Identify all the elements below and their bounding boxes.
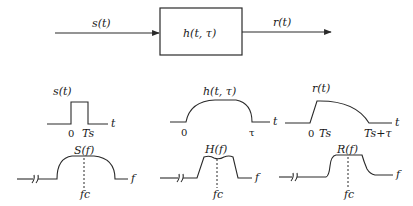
input-tick-0: 0: [68, 128, 74, 139]
spectrum-waveform: [38, 156, 128, 179]
channel-freq-plot: H(f) f fc: [160, 143, 261, 201]
block-diagram: s(t) h(t, τ) r(t): [55, 8, 331, 55]
output-freq-axis-label: f: [395, 168, 402, 181]
output-time-plot: r(t) t 0 Ts Ts+τ: [285, 82, 400, 140]
input-freq-axis-label: f: [130, 172, 137, 185]
output-signal-label: r(t): [273, 16, 291, 29]
input-time-axis-label: t: [111, 117, 116, 130]
input-signal-label: s(t): [92, 17, 111, 30]
input-freq-plot: S(f) f fc: [17, 144, 137, 201]
input-tick-ts: Ts: [82, 127, 95, 140]
channel-freq-axis-label: f: [254, 171, 261, 184]
received-signal-waveform: [285, 101, 392, 123]
output-tick-ts: Ts: [319, 127, 332, 140]
output-freq-plot: R(f) f fc: [279, 143, 402, 201]
channel-time-label: h(t, τ): [203, 85, 236, 98]
channel-time-axis-label: t: [273, 115, 278, 128]
input-center-freq-label: fc: [79, 188, 90, 201]
channel-center-freq-label: fc: [212, 188, 223, 201]
output-tick-0: 0: [308, 128, 314, 139]
input-freq-label: S(f): [74, 144, 94, 157]
diagram-canvas: s(t) h(t, τ) r(t) s(t) t 0 Ts S(f) f fc …: [0, 0, 413, 206]
rect-pulse-waveform: [47, 102, 108, 124]
channel-tick-tau: τ: [249, 127, 255, 138]
input-time-label: s(t): [53, 85, 72, 98]
output-freq-label: R(f): [336, 143, 358, 156]
channel-tick-0: 0: [181, 127, 187, 138]
impulse-response-waveform: [170, 100, 270, 122]
input-time-plot: s(t) t 0 Ts: [47, 85, 116, 140]
system-label: h(t, τ): [183, 27, 216, 40]
output-center-freq-label: fc: [343, 188, 354, 201]
spectrum-waveform: [297, 155, 393, 177]
output-tick-ts-plus-tau: Ts+τ: [364, 127, 392, 140]
channel-freq-label: H(f): [204, 143, 227, 156]
output-time-label: r(t): [312, 82, 330, 95]
channel-time-plot: h(t, τ) t 0 τ: [170, 85, 278, 138]
output-time-axis-label: t: [395, 116, 400, 129]
